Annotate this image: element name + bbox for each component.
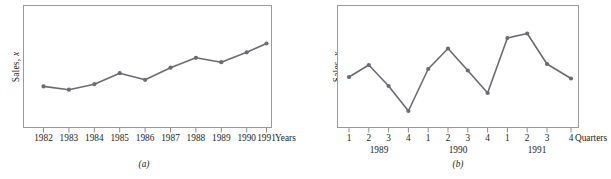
panel-b-group-label-1989: 1989 xyxy=(360,145,398,156)
panel-b-tick-label-q3-1990: 3 xyxy=(458,133,478,144)
panel-b-tick-label-q4-1989: 4 xyxy=(398,133,418,144)
panel-a-x-axis-name: Years xyxy=(275,133,296,144)
panel-b-plot-frame xyxy=(338,6,579,128)
panel-b-tick-label-q2-1990: 2 xyxy=(438,133,458,144)
panel-b-tick-label-q2-1989: 2 xyxy=(359,133,379,144)
panel-b-tick-label-q1-1991: 1 xyxy=(497,133,517,144)
panel-b: Sales, x xyxy=(305,0,611,179)
panel-b-caption: (b) xyxy=(438,159,478,169)
panel-b-tick-label-q1-1989: 1 xyxy=(339,133,359,144)
panel-b-x-ticks xyxy=(349,128,571,133)
panel-b-tick-label-q2-1991: 2 xyxy=(517,133,537,144)
panel-b-tick-label-q3-1991: 3 xyxy=(537,133,557,144)
panel-b-tick-label-q1-1990: 1 xyxy=(418,133,438,144)
panel-a-plot-frame xyxy=(24,6,272,128)
figure-row: Sales, x xyxy=(0,0,611,179)
panel-b-tick-label-q4-1990: 4 xyxy=(478,133,498,144)
panel-a-plot xyxy=(0,0,305,179)
panel-a: Sales, x xyxy=(0,0,305,179)
panel-b-group-label-1991: 1991 xyxy=(518,145,556,156)
panel-a-x-ticks xyxy=(44,128,267,133)
panel-b-group-label-1990: 1990 xyxy=(439,145,477,156)
panel-b-x-axis-name: Quarters xyxy=(575,133,607,144)
panel-b-tick-label-q3-1989: 3 xyxy=(379,133,399,144)
panel-a-caption: (a) xyxy=(124,159,164,169)
